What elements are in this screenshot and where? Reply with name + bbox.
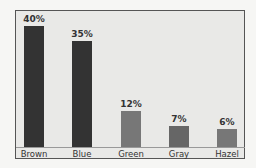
bar-hazel: [217, 129, 237, 147]
category-label-gray: Gray: [155, 149, 203, 159]
bar-green: [121, 111, 141, 147]
bar-brown: [24, 26, 44, 147]
value-label-green: 12%: [111, 99, 151, 109]
bar-gray: [169, 126, 189, 147]
category-label-green: Green: [107, 149, 155, 159]
category-label-hazel: Hazel: [203, 149, 251, 159]
bar-blue: [72, 41, 92, 147]
x-axis-baseline: [16, 147, 245, 148]
value-label-blue: 35%: [62, 29, 102, 39]
category-label-brown: Brown: [10, 149, 58, 159]
category-label-blue: Blue: [58, 149, 106, 159]
value-label-gray: 7%: [159, 114, 199, 124]
value-label-hazel: 6%: [207, 117, 247, 127]
value-label-brown: 40%: [14, 14, 54, 24]
